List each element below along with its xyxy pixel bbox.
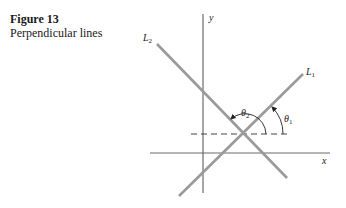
y-axis-label: y (208, 12, 214, 23)
line-L2 (157, 44, 287, 178)
L2-label: L2 (142, 32, 153, 45)
theta2-label: θ2 (241, 107, 250, 120)
theta1-label: θ1 (284, 113, 293, 126)
perpendicular-lines-diagram: y x L2 L1 θ2 θ1 (0, 0, 346, 208)
x-axis-label: x (321, 155, 327, 166)
theta1-arc (272, 107, 283, 134)
line-L1 (179, 74, 303, 196)
L1-label: L1 (305, 66, 316, 79)
